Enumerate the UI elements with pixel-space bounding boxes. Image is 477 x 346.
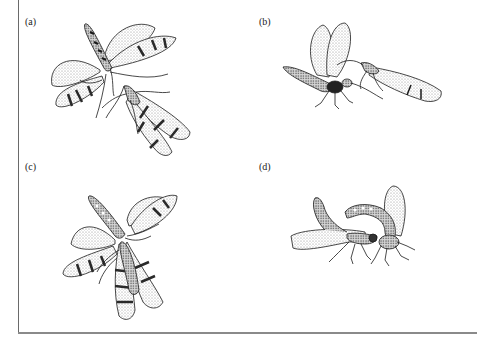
panel-label-a: (a) bbox=[25, 17, 36, 27]
panel-a-illustration bbox=[40, 10, 210, 160]
insect-lower bbox=[102, 86, 190, 156]
figure-frame-left bbox=[18, 0, 19, 333]
insect-male bbox=[345, 186, 415, 266]
panel-label-c: (c) bbox=[25, 162, 36, 172]
insect-female bbox=[337, 61, 441, 102]
panel-b-illustration bbox=[275, 15, 455, 115]
panel-label-b: (b) bbox=[259, 17, 271, 27]
figure-frame-bottom bbox=[18, 332, 477, 334]
panel-d-illustration bbox=[285, 180, 435, 280]
insect-upper bbox=[52, 24, 176, 118]
panel-label-d: (d) bbox=[259, 162, 271, 172]
panel-c-illustration bbox=[55, 180, 190, 330]
